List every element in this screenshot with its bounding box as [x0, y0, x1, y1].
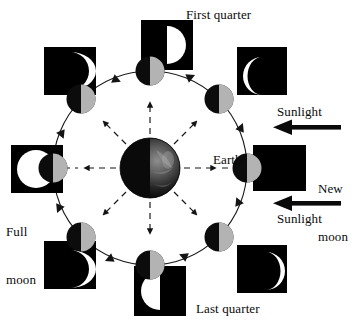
moon-phases-diagram: First quarter Last quarter Earth New moo… — [0, 0, 360, 327]
label-earth: Earth — [213, 153, 242, 167]
sunlight-arrow-top — [273, 120, 341, 136]
label-sunlight-top: Sunlight — [277, 105, 322, 119]
label-first-quarter: First quarter — [186, 8, 251, 22]
label-full-moon-line1: Full — [6, 224, 36, 240]
moon-disc-last-quarter — [136, 251, 165, 280]
thumb-waning-crescent — [237, 245, 287, 293]
ray-northeast — [174, 121, 197, 144]
moon-disc-waxing-gibbous — [67, 85, 96, 114]
diagram-canvas — [0, 0, 360, 327]
ray-southwest — [103, 192, 126, 215]
label-new-moon-line2: moon — [318, 229, 348, 245]
label-new-moon-line1: New — [318, 181, 348, 197]
label-full-moon-line2: moon — [6, 272, 36, 288]
label-full-moon: Full moon — [6, 192, 36, 320]
label-sunlight-bottom: Sunlight — [277, 212, 322, 226]
thumb-waxing-crescent — [237, 47, 287, 95]
ray-northwest — [103, 121, 126, 144]
moon-disc-first-quarter — [136, 57, 165, 86]
moon-disc-waning-crescent — [205, 223, 234, 252]
ray-southeast — [174, 192, 197, 215]
moon-disc-full-moon — [39, 154, 68, 183]
label-new-moon: New moon — [318, 149, 348, 277]
earth-sphere — [120, 138, 180, 198]
moon-disc-waxing-crescent — [205, 85, 234, 114]
moon-disc-waning-gibbous — [67, 223, 96, 252]
label-last-quarter: Last quarter — [196, 302, 260, 316]
